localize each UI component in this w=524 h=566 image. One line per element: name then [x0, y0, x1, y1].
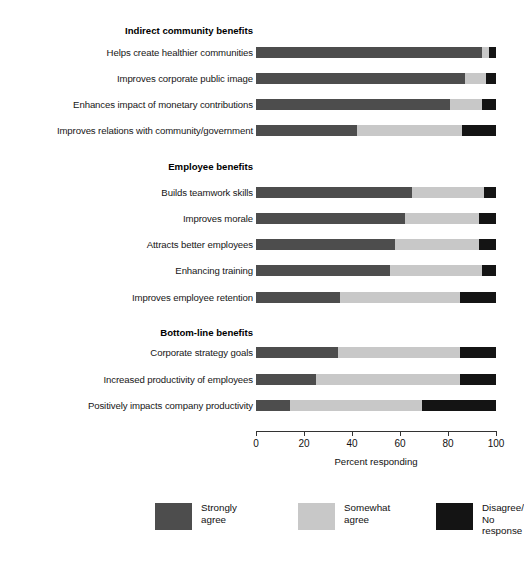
bar-segment-disagree-no-response: [482, 265, 496, 276]
stacked-bar: [256, 47, 496, 58]
stacked-bar: [256, 374, 496, 385]
bar-segment-somewhat-agree: [395, 239, 479, 250]
x-axis-tick: [304, 431, 305, 436]
stacked-bar: [256, 213, 496, 224]
clipped-header-strip: [0, 0, 523, 6]
chart-row: Enhancing training: [0, 264, 523, 277]
chart-row: Improves morale: [0, 212, 523, 225]
bar-segment-strongly-agree: [256, 292, 340, 303]
bar-segment-disagree-no-response: [460, 292, 496, 303]
category-label: Attracts better employees: [0, 238, 253, 251]
chart-row: Enhances impact of monetary contribution…: [0, 98, 523, 111]
chart-row: Attracts better employees: [0, 238, 523, 251]
bar-segment-strongly-agree: [256, 47, 482, 58]
bar-segment-disagree-no-response: [486, 73, 496, 84]
bar-segment-somewhat-agree: [357, 125, 463, 136]
x-axis-tick-label: 40: [332, 438, 372, 450]
chart-row: Corporate strategy goals: [0, 346, 523, 359]
x-axis-tick: [256, 431, 257, 436]
stacked-bar: [256, 73, 496, 84]
bar-segment-strongly-agree: [256, 187, 412, 198]
chart-row: Helps create healthier communities: [0, 46, 523, 59]
category-label: Enhancing training: [0, 264, 253, 277]
stacked-bar: [256, 187, 496, 198]
bar-segment-disagree-no-response: [482, 99, 496, 110]
category-label: Improves employee retention: [0, 291, 253, 304]
bar-segment-disagree-no-response: [479, 239, 496, 250]
legend-label: Disagree/ No response: [482, 502, 524, 537]
group-header-row: Indirect community benefits: [0, 24, 523, 37]
x-axis-tick-label: 100: [476, 438, 516, 450]
bar-segment-disagree-no-response: [422, 400, 496, 411]
legend-swatch: [298, 503, 335, 530]
bar-segment-strongly-agree: [256, 125, 357, 136]
stacked-bar: [256, 99, 496, 110]
bar-segment-somewhat-agree: [340, 292, 460, 303]
legend-swatch: [436, 503, 473, 530]
bar-segment-somewhat-agree: [482, 47, 489, 58]
chart-row: Increased productivity of employees: [0, 373, 523, 386]
legend-swatch: [155, 503, 192, 530]
x-axis-tick: [448, 431, 449, 436]
bar-segment-somewhat-agree: [338, 347, 460, 358]
bar-segment-strongly-agree: [256, 400, 290, 411]
x-axis-tick: [496, 431, 497, 436]
category-label: Positively impacts company productivity: [0, 399, 253, 412]
category-label: Improves corporate public image: [0, 72, 253, 85]
category-label: Enhances impact of monetary contribution…: [0, 98, 253, 111]
group-header-row: Bottom-line benefits: [0, 326, 523, 339]
bar-segment-somewhat-agree: [405, 213, 479, 224]
bar-segment-somewhat-agree: [465, 73, 487, 84]
x-axis-tick: [400, 431, 401, 436]
x-axis-title: Percent responding: [256, 456, 496, 467]
legend-label: Somewhat agree: [344, 502, 390, 525]
legend-label: Strongly agree: [201, 502, 237, 525]
bar-segment-strongly-agree: [256, 265, 390, 276]
category-label: Builds teamwork skills: [0, 186, 253, 199]
bar-segment-strongly-agree: [256, 213, 405, 224]
stacked-bar: [256, 239, 496, 250]
category-label: Improves morale: [0, 212, 253, 225]
category-label: Corporate strategy goals: [0, 346, 253, 359]
bar-segment-somewhat-agree: [450, 99, 481, 110]
x-axis-tick-label: 80: [428, 438, 468, 450]
chart-row: Builds teamwork skills: [0, 186, 523, 199]
chart-legend: Strongly agreeSomewhat agreeDisagree/ No…: [155, 503, 495, 543]
bar-segment-somewhat-agree: [316, 374, 460, 385]
x-axis-tick-label: 60: [380, 438, 420, 450]
bar-segment-disagree-no-response: [460, 347, 496, 358]
bar-segment-strongly-agree: [256, 73, 465, 84]
chart-row: Improves employee retention: [0, 291, 523, 304]
group-header-label: Bottom-line benefits: [0, 326, 253, 339]
x-axis-line: [256, 431, 496, 432]
x-axis-tick: [352, 431, 353, 436]
bar-segment-disagree-no-response: [462, 125, 496, 136]
bar-segment-disagree-no-response: [484, 187, 496, 198]
category-label: Increased productivity of employees: [0, 373, 253, 386]
group-header-label: Employee benefits: [0, 160, 253, 173]
category-label: Improves relations with community/govern…: [0, 124, 253, 137]
chart-row: Improves corporate public image: [0, 72, 523, 85]
bar-segment-disagree-no-response: [479, 213, 496, 224]
chart-row: Improves relations with community/govern…: [0, 124, 523, 137]
stacked-bar: [256, 125, 496, 136]
bar-segment-disagree-no-response: [460, 374, 496, 385]
bar-segment-strongly-agree: [256, 347, 338, 358]
stacked-bar: [256, 347, 496, 358]
x-axis-tick-label: 20: [284, 438, 324, 450]
stacked-bar: [256, 400, 496, 411]
chart-row: Positively impacts company productivity: [0, 399, 523, 412]
bar-segment-somewhat-agree: [390, 265, 481, 276]
bar-segment-strongly-agree: [256, 99, 450, 110]
x-axis-tick-label: 0: [236, 438, 276, 450]
stacked-bar: [256, 265, 496, 276]
bar-segment-strongly-agree: [256, 239, 395, 250]
bar-segment-somewhat-agree: [412, 187, 484, 198]
stacked-bar: [256, 292, 496, 303]
bar-segment-somewhat-agree: [290, 400, 422, 411]
bar-segment-disagree-no-response: [489, 47, 496, 58]
group-header-label: Indirect community benefits: [0, 24, 253, 37]
category-label: Helps create healthier communities: [0, 46, 253, 59]
bar-segment-strongly-agree: [256, 374, 316, 385]
